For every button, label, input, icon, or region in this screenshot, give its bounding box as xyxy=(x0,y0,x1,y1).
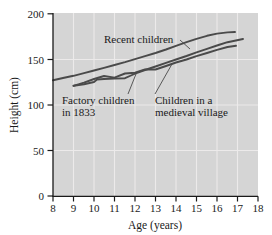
y-axis-title: Height (cm) xyxy=(8,77,21,133)
x-tick-label-14: 14 xyxy=(171,202,183,214)
x-tick-label-13: 13 xyxy=(150,202,162,214)
x-tick-label-8: 8 xyxy=(50,202,56,214)
height-vs-age-chart: 200 150 100 50 0 8 9 10 11 12 13 14 15 1… xyxy=(0,0,272,235)
x-axis-title: Age (years) xyxy=(128,219,182,232)
x-tick-label-11: 11 xyxy=(109,202,120,214)
x-tick-label-10: 10 xyxy=(89,202,101,214)
x-tick-label-9: 9 xyxy=(71,202,77,214)
annotation-factory-children-line1: Factory children xyxy=(62,94,135,106)
y-tick-label-100: 100 xyxy=(28,99,45,111)
y-tick-label-150: 150 xyxy=(28,54,45,66)
chart-canvas: 200 150 100 50 0 8 9 10 11 12 13 14 15 1… xyxy=(0,0,272,235)
y-tick-label-0: 0 xyxy=(39,190,45,202)
y-axis-ticks xyxy=(48,14,54,196)
x-tick-label-15: 15 xyxy=(191,202,203,214)
annotation-recent-children: Recent children xyxy=(104,33,174,45)
y-tick-label-200: 200 xyxy=(28,8,45,20)
y-tick-label-50: 50 xyxy=(33,145,45,157)
annotation-medieval-village-line1: Children in a xyxy=(155,94,213,106)
x-tick-label-16: 16 xyxy=(212,202,224,214)
annotation-factory-children-line2: in 1833 xyxy=(62,106,96,118)
x-tick-label-18: 18 xyxy=(253,202,265,214)
x-axis-ticks xyxy=(53,196,258,201)
x-tick-label-12: 12 xyxy=(130,202,141,214)
x-tick-label-17: 17 xyxy=(232,202,244,214)
annotation-medieval-village-line2: medieval village xyxy=(155,106,228,118)
